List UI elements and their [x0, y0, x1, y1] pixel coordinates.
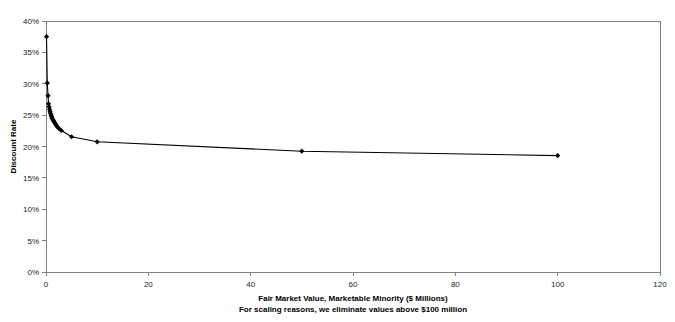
y-tick-label: 30%	[23, 80, 39, 89]
x-axis-note: For scaling reasons, we eliminate values…	[239, 305, 467, 314]
data-point-marker	[45, 81, 50, 86]
chart-canvas: 0%5%10%15%20%25%30%35%40% 02040608010012…	[0, 0, 675, 322]
y-tick-label: 0%	[27, 268, 39, 277]
y-axis-tick-labels: 0%5%10%15%20%25%30%35%40%	[23, 17, 39, 277]
x-tick-label: 120	[653, 280, 667, 289]
y-axis-ticks	[42, 21, 46, 272]
data-point-marker	[69, 134, 74, 139]
y-tick-label: 25%	[23, 111, 39, 120]
data-point-marker	[44, 34, 49, 39]
x-axis-ticks	[46, 272, 660, 276]
y-tick-label: 10%	[23, 205, 39, 214]
y-tick-label: 20%	[23, 143, 39, 152]
x-tick-label: 20	[144, 280, 153, 289]
series-line	[47, 37, 558, 156]
x-tick-label: 60	[349, 280, 358, 289]
plot-frame	[46, 21, 660, 272]
y-tick-label: 35%	[23, 48, 39, 57]
x-axis-title: Fair Market Value, Marketable Minority (…	[258, 294, 448, 303]
x-tick-label: 80	[451, 280, 460, 289]
data-point-marker	[555, 153, 560, 158]
chart-container: 0%5%10%15%20%25%30%35%40% 02040608010012…	[0, 0, 675, 322]
y-axis-title: Discount Rate	[9, 119, 18, 173]
data-series	[44, 34, 560, 158]
x-tick-label: 0	[44, 280, 49, 289]
y-tick-label: 40%	[23, 17, 39, 26]
y-tick-label: 5%	[27, 237, 39, 246]
x-tick-label: 40	[246, 280, 255, 289]
y-tick-label: 15%	[23, 174, 39, 183]
x-tick-label: 100	[551, 280, 565, 289]
data-point-marker	[95, 139, 100, 144]
x-axis-tick-labels: 020406080100120	[44, 280, 667, 289]
data-point-marker	[299, 149, 304, 154]
